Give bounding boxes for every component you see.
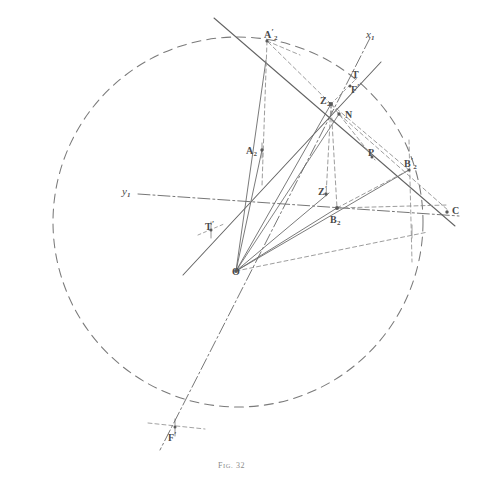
caption-small: IG. bbox=[223, 462, 233, 469]
label-B2prime: B′2 bbox=[404, 158, 417, 171]
point-markers bbox=[174, 39, 449, 428]
dashed-B2-C bbox=[337, 205, 447, 208]
label-Fprime: F′ bbox=[351, 84, 360, 95]
line-A2prime-C bbox=[214, 18, 455, 226]
dashed-Fprime-left bbox=[148, 423, 205, 429]
label-y1: y1 bbox=[122, 186, 131, 199]
point-N bbox=[337, 112, 340, 115]
label-Z2: Z2 bbox=[320, 96, 331, 108]
label-C: C bbox=[452, 206, 459, 216]
label-N: N bbox=[345, 110, 352, 120]
label-Tprime: T′ bbox=[205, 221, 214, 232]
figure-container: A′2 x1 T F′ Z2 N A2 P B′2 y1 Z′ C T′ B2 … bbox=[0, 0, 479, 483]
label-T: T bbox=[352, 70, 359, 80]
main-circle bbox=[53, 37, 423, 407]
label-O: O bbox=[232, 267, 240, 277]
dashed-Z2-B2 bbox=[331, 104, 337, 208]
label-B2: B2 bbox=[330, 215, 341, 227]
point-A2 bbox=[260, 148, 263, 151]
label-A2prime: A′2 bbox=[264, 29, 278, 42]
dashed-B2-B2prime bbox=[337, 170, 409, 208]
dashed-O-horizontal bbox=[236, 232, 428, 271]
dashed-A2prime-A2 bbox=[262, 41, 267, 186]
dashed-N-C bbox=[339, 114, 449, 211]
caption-number: 32 bbox=[236, 461, 245, 470]
ray-O-Z2 bbox=[236, 104, 331, 271]
ray-O-A2prime bbox=[236, 60, 266, 271]
point-B2 bbox=[335, 206, 339, 210]
ray-O-B2 bbox=[236, 208, 337, 271]
label-x1: x1 bbox=[366, 29, 375, 42]
label-Fprime-bottom: F′ bbox=[168, 432, 177, 443]
label-A2: A2 bbox=[246, 146, 257, 158]
dashed-Z2-B2prime bbox=[331, 104, 409, 170]
point-C bbox=[445, 210, 448, 213]
geometry-diagram bbox=[0, 0, 479, 483]
label-P: P bbox=[368, 148, 374, 158]
label-Zprime: Z′ bbox=[318, 186, 327, 197]
point-Fprime2 bbox=[174, 426, 177, 429]
figure-caption: FIG. 32 bbox=[218, 461, 245, 470]
